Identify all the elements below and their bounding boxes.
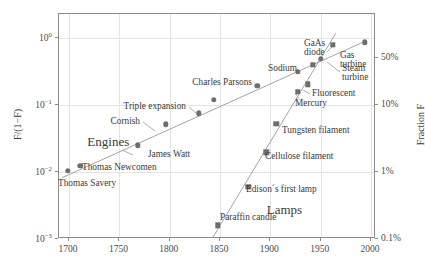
y-tick-mark-right	[375, 104, 378, 105]
x-tick-mark	[219, 238, 220, 241]
annotation-triple-expansion: Triple expansion	[124, 102, 186, 112]
annotation-tungsten-filament: Tungsten filament	[282, 126, 350, 136]
y-tick-label-left: 10−1	[18, 98, 52, 110]
y-tick-label-right: 10%	[381, 99, 398, 109]
annotation-cellulose-filament: Cellulose filament	[265, 152, 333, 162]
data-point	[215, 223, 220, 228]
annotation-cornish: Cornish	[111, 117, 140, 127]
x-tick-label: 1850	[210, 244, 229, 254]
x-tick-label: 1700	[59, 244, 78, 254]
gridline-horizontal	[59, 38, 374, 39]
data-point	[274, 121, 279, 126]
annotation-thomas-newcomen: Thomas Newcomen	[82, 163, 157, 173]
data-point	[305, 81, 310, 86]
x-tick-mark	[169, 238, 170, 241]
data-point	[330, 42, 335, 47]
y-tick-label-right: 50%	[381, 52, 398, 62]
y-tick-label-left: 10−2	[18, 165, 52, 177]
x-tick-mark	[320, 238, 321, 241]
y-tick-mark	[55, 104, 58, 105]
y-tick-mark-right	[375, 171, 378, 172]
y-axis-title-right: Fraction F	[415, 89, 425, 159]
gridline-vertical	[371, 14, 372, 237]
annotation-james-watt: James Watt	[148, 150, 190, 160]
annotation-edisons-first-lamp: Edison´s first lamp	[246, 185, 317, 195]
x-tick-label: 1800	[159, 244, 178, 254]
chart-root: F/(1−F) Fraction F Engines Lamps 1700175…	[0, 0, 425, 268]
y-tick-label-left: 10−3	[18, 232, 52, 244]
annotation-gaas-l2: diode	[304, 48, 325, 58]
y-tick-label-right: 0.1%	[381, 233, 401, 243]
annotation-thomas-savery: Thomas Savery	[58, 179, 116, 189]
y-tick-label-right: 1%	[381, 166, 394, 176]
y-tick-mark	[55, 238, 58, 239]
annotation-mercury: Mercury	[295, 99, 327, 109]
data-point	[310, 62, 315, 67]
x-tick-label: 1900	[260, 244, 279, 254]
x-tick-label: 2000	[360, 244, 379, 254]
x-tick-label: 1750	[109, 244, 128, 254]
annotation-gas-turbine-l2: turbine	[340, 60, 366, 70]
y-tick-mark	[55, 37, 58, 38]
data-point	[295, 89, 300, 94]
y-tick-label-left: 100	[18, 30, 52, 42]
annotation-steam-turbine-l2: turbine	[342, 73, 368, 83]
group-label-engines: Engines	[87, 134, 129, 150]
x-tick-mark	[68, 238, 69, 241]
gridline-vertical	[220, 14, 221, 237]
x-tick-label: 1950	[310, 244, 329, 254]
y-tick-mark-right	[375, 57, 378, 58]
x-tick-mark	[118, 238, 119, 241]
gridline-vertical	[170, 14, 171, 237]
annotation-paraffin-candle: Paraffin candle	[220, 213, 276, 223]
annotation-sodium: Sodium	[268, 64, 297, 74]
y-tick-mark-right	[375, 238, 378, 239]
y-tick-mark	[55, 171, 58, 172]
x-tick-mark	[370, 238, 371, 241]
annotation-charles-parsons: Charles Parsons	[192, 78, 252, 88]
x-tick-mark	[269, 238, 270, 241]
annotation-fluorescent: Fluorescent	[312, 89, 355, 99]
gridline-vertical	[69, 14, 70, 237]
